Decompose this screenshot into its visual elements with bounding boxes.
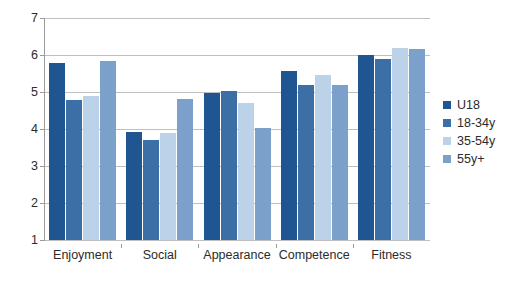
x-tick-mark	[121, 244, 122, 248]
legend-swatch-icon	[443, 101, 451, 109]
x-axis-category-label: Fitness	[371, 249, 411, 263]
legend-item[interactable]: 35-54y	[443, 132, 517, 150]
y-tick-mark	[40, 18, 45, 19]
y-tick-label: 1	[6, 234, 38, 247]
bar[interactable]	[238, 103, 254, 240]
x-tick-mark	[353, 244, 354, 248]
bar[interactable]	[160, 133, 176, 240]
bar[interactable]	[332, 85, 348, 240]
bar[interactable]	[49, 63, 65, 240]
y-tick-label: 7	[6, 12, 38, 25]
y-tick-label: 3	[6, 160, 38, 173]
bar[interactable]	[375, 59, 391, 240]
chart-legend: U1818-34y35-54y55y+	[443, 96, 517, 168]
bar[interactable]	[358, 55, 374, 240]
y-tick-label: 5	[6, 86, 38, 99]
y-axis-labels: 1234567	[0, 18, 38, 240]
bar[interactable]	[221, 91, 237, 240]
legend-label: 55y+	[457, 153, 484, 166]
legend-swatch-icon	[443, 119, 451, 127]
bar-group	[358, 18, 425, 240]
y-tick-mark	[40, 240, 45, 241]
y-tick-mark	[40, 129, 45, 130]
x-axis-category-label: Appearance	[203, 249, 270, 263]
bar[interactable]	[66, 100, 82, 240]
x-tick-mark	[198, 244, 199, 248]
bar[interactable]	[100, 61, 116, 240]
bar[interactable]	[204, 93, 220, 240]
bar[interactable]	[255, 128, 271, 240]
x-tick-mark	[276, 244, 277, 248]
x-axis-category-label: Enjoyment	[53, 249, 112, 263]
bar[interactable]	[177, 99, 193, 240]
bar[interactable]	[315, 75, 331, 240]
y-tick-mark	[40, 55, 45, 56]
x-axis-category-label: Social	[143, 249, 177, 263]
y-tick-mark	[40, 203, 45, 204]
y-tick-label: 2	[6, 197, 38, 210]
y-tick-label: 4	[6, 123, 38, 136]
legend-item[interactable]: 18-34y	[443, 114, 517, 132]
bar[interactable]	[83, 96, 99, 240]
bar-group	[204, 18, 271, 240]
plot-area	[44, 18, 430, 240]
bar[interactable]	[298, 85, 314, 240]
legend-swatch-icon	[443, 137, 451, 145]
bar-chart: 1234567 EnjoymentSocialAppearanceCompete…	[0, 0, 519, 281]
bar-group	[49, 18, 116, 240]
legend-label: 35-54y	[457, 135, 495, 148]
bar[interactable]	[281, 71, 297, 240]
bar-group	[126, 18, 193, 240]
y-tick-mark	[40, 92, 45, 93]
bar[interactable]	[392, 48, 408, 240]
legend-item[interactable]: U18	[443, 96, 517, 114]
y-tick-label: 6	[6, 49, 38, 62]
bar-group	[281, 18, 348, 240]
x-axis-category-label: Competence	[279, 249, 350, 263]
legend-label: 18-34y	[457, 117, 495, 130]
bar[interactable]	[409, 49, 425, 240]
gridline	[44, 240, 430, 241]
bar[interactable]	[126, 132, 142, 240]
y-tick-mark	[40, 166, 45, 167]
bar[interactable]	[143, 140, 159, 240]
x-axis-labels: EnjoymentSocialAppearanceCompetenceFitne…	[44, 244, 430, 266]
legend-swatch-icon	[443, 155, 451, 163]
legend-item[interactable]: 55y+	[443, 150, 517, 168]
legend-label: U18	[457, 99, 480, 112]
